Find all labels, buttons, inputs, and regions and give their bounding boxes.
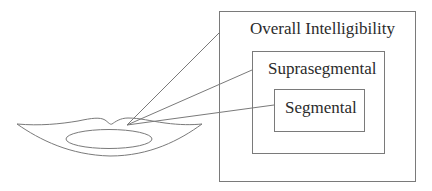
segmental-label: Segmental: [285, 98, 357, 118]
connector-overall: [127, 33, 219, 125]
overall-intelligibility-label: Overall Intelligibility: [250, 19, 395, 39]
lips-mouth-icon: [17, 118, 202, 156]
suprasegmental-label: Suprasegmental: [268, 59, 377, 79]
